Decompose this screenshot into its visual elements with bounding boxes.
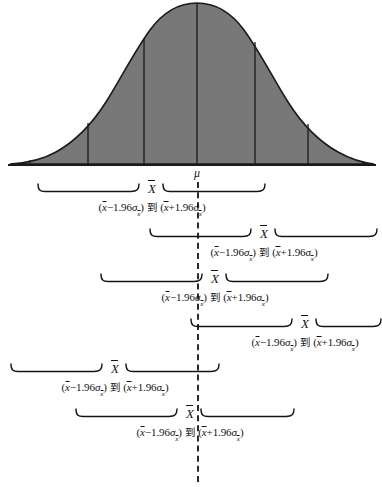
confidence-interval-row: X(x−1.96σx) 到 (x+1.96σx): [0, 273, 382, 315]
interval-braces: [0, 273, 382, 289]
lower-bound-brace: [190, 318, 293, 330]
interval-formula: (x−1.96σx) 到 (x+1.96σx): [99, 199, 206, 216]
normal-distribution-chart: μ: [0, 0, 382, 176]
sample-mean-label: X: [148, 181, 156, 197]
distribution-svg: [0, 0, 382, 176]
confidence-interval-row: X(x−1.96σx) 到 (x+1.96σx): [0, 318, 382, 360]
lower-bound-brace: [10, 363, 103, 375]
lower-bound-brace: [100, 273, 203, 285]
sample-mean-label: X: [186, 406, 194, 422]
interval-braces: [0, 363, 382, 379]
lower-bound-brace: [75, 408, 178, 420]
figure-canvas: μ X(x−1.96σx) 到 (x+1.96σx)X(x−1.96σx) 到 …: [0, 0, 382, 487]
sample-mean-label: X: [211, 271, 219, 287]
upper-bound-brace: [162, 183, 266, 195]
confidence-interval-row: X(x−1.96σx) 到 (x+1.96σx): [0, 183, 382, 225]
interval-formula: (x−1.96σx) 到 (x+1.96σx): [162, 289, 269, 306]
interval-braces: [0, 183, 382, 199]
upper-bound-brace: [274, 228, 378, 240]
mu-label: μ: [194, 166, 200, 181]
interval-formula: (x−1.96σx) 到 (x+1.96σx): [62, 379, 169, 396]
upper-bound-brace: [225, 273, 329, 285]
interval-formula: (x−1.96σx) 到 (x+1.96σx): [211, 244, 318, 261]
sample-mean-label: X: [260, 226, 268, 242]
interval-formula: (x−1.96σx) 到 (x+1.96σx): [252, 334, 359, 351]
interval-braces: [0, 228, 382, 244]
lower-bound-brace: [149, 228, 252, 240]
interval-formula: (x−1.96σx) 到 (x+1.96σx): [137, 424, 244, 441]
confidence-interval-row: X(x−1.96σx) 到 (x+1.96σx): [0, 408, 382, 450]
upper-bound-brace: [125, 363, 220, 375]
upper-bound-brace: [200, 408, 295, 420]
confidence-interval-row: X(x−1.96σx) 到 (x+1.96σx): [0, 228, 382, 270]
upper-bound-brace: [315, 318, 382, 330]
interval-braces: [0, 318, 382, 334]
confidence-interval-row: X(x−1.96σx) 到 (x+1.96σx): [0, 363, 382, 405]
bell-curve-area: [10, 3, 374, 164]
lower-bound-brace: [37, 183, 140, 195]
sample-mean-label: X: [111, 361, 119, 377]
sample-mean-label: X: [301, 316, 309, 332]
